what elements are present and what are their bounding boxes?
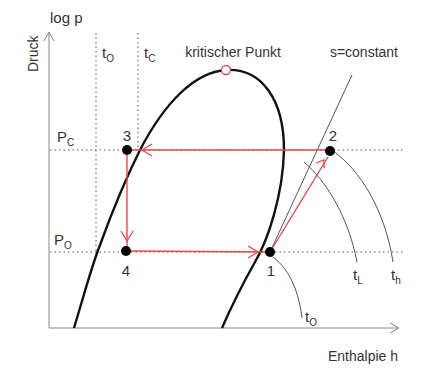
x-axis-label: Enthalpie h: [328, 348, 398, 364]
cycle-path-1-2: [270, 157, 328, 252]
y-axis-label: log p: [50, 9, 83, 26]
diagram-svg: log p Druck Enthalpie h tO tC PC PO krit…: [0, 0, 430, 380]
state-point-1: [265, 247, 275, 257]
point-4-label: 4: [122, 262, 130, 279]
t0-low-label: tO: [305, 308, 317, 328]
point-2-label: 2: [329, 127, 337, 144]
cycle-path-4-1: [127, 251, 270, 252]
t0-label: tO: [102, 44, 114, 64]
critical-point-marker: [222, 66, 231, 75]
isotherm-guides: [96, 33, 138, 252]
isentrope-label: s=constant: [330, 44, 398, 60]
tl-label: tL: [353, 266, 363, 286]
tc-label: tC: [144, 44, 155, 64]
tl-curve: [304, 162, 357, 262]
saturation-dome: [74, 70, 284, 328]
log-ph-diagram: log p Druck Enthalpie h tO tC PC PO krit…: [0, 0, 430, 380]
y-axis-caption: Druck: [25, 34, 41, 72]
pc-label: PC: [57, 128, 74, 148]
point-1-label: 1: [267, 262, 275, 279]
axes: [44, 32, 399, 333]
critical-point-label: kritischer Punkt: [185, 44, 281, 60]
state-point-4: [121, 246, 131, 256]
state-point-3: [122, 145, 132, 155]
state-point-2: [325, 146, 335, 156]
th-label: th: [391, 266, 401, 286]
th-curve: [333, 151, 393, 262]
po-label: PO: [54, 231, 72, 251]
refrigeration-cycle: [121, 144, 330, 258]
point-3-label: 3: [123, 127, 131, 144]
